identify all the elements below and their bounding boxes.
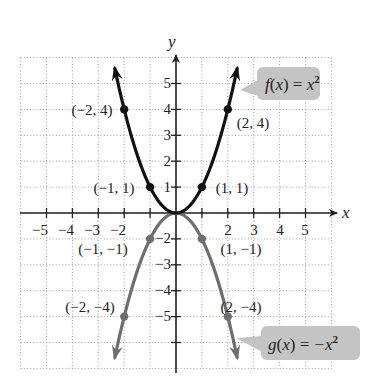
y-tick-label: −4 [155,282,171,298]
point-label-g: (−2, −4) [65,299,114,316]
y-tick-label: −5 [155,308,171,324]
y-tick-label: −2 [155,230,171,246]
data-point [120,105,128,113]
data-point [146,235,154,243]
x-axis-label: x [341,203,350,222]
point-label-g: (−1, −1) [78,241,127,258]
y-tick-label: 5 [164,75,172,91]
x-tick-label: −4 [58,222,74,238]
x-tick-label: −2 [110,222,126,238]
data-point [198,183,206,191]
svg-text:g(x) = −x2: g(x) = −x2 [268,333,339,354]
x-tick-label: 2 [224,222,232,238]
data-point [120,312,128,320]
x-tick-label: −3 [84,222,100,238]
y-tick-label: 1 [164,179,172,195]
y-tick-label: −3 [155,256,171,272]
point-label-g: (2, −4) [221,299,262,316]
point-label-f: (1, 1) [216,180,249,197]
point-label-f: (−2, 4) [72,102,113,119]
x-tick-label: 3 [250,222,258,238]
y-tick-label: 3 [164,127,172,143]
y-tick-label: 4 [164,101,172,117]
point-label-f: (−1, 1) [94,180,135,197]
f-callout: f(x) = x2 [240,67,320,100]
y-tick-label: 2 [164,153,172,169]
point-label-f: (2, 4) [237,115,270,132]
svg-text:f(x) = x2: f(x) = x2 [265,73,320,94]
x-tick-label: 5 [301,222,309,238]
data-point [198,235,206,243]
data-point [146,183,154,191]
g-callout: g(x) = −x2 [236,326,360,360]
parabola-graph: x y −5 −4 −3 −2 2 3 4 5 5 4 3 2 1 −2 −3 … [0,0,379,379]
data-point [224,105,232,113]
x-tick-label: −5 [32,222,48,238]
y-axis-label: y [166,32,176,51]
point-label-g: (1, −1) [221,241,262,258]
x-tick-label: 4 [276,222,284,238]
